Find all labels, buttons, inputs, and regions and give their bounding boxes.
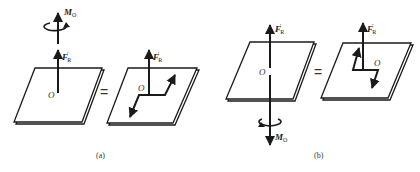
origin-label: O [48,90,55,100]
statics-diagram: MO F′R O = F′R O (a) F′R MO [0,0,420,172]
moment-label: MO [274,132,288,143]
moment-label: MO [63,7,77,18]
origin-label: O [138,83,145,93]
plate-b-right [321,43,413,100]
force-label: F′R [61,51,71,63]
force-label: F′R [274,23,284,35]
origin-label: O [374,58,381,68]
caption-b: (b) [314,151,324,160]
force-label: F′R [366,23,376,35]
origin-label: O [259,67,266,77]
panel-a: MO F′R O = F′R O (a) [14,7,199,160]
force-label: F′R [152,51,162,63]
caption-a: (a) [96,151,105,160]
equals-sign: = [100,84,108,100]
panel-b: F′R MO O = F′R O (b) [226,23,413,160]
plate-a-right [107,68,199,125]
equals-sign: = [314,64,322,80]
